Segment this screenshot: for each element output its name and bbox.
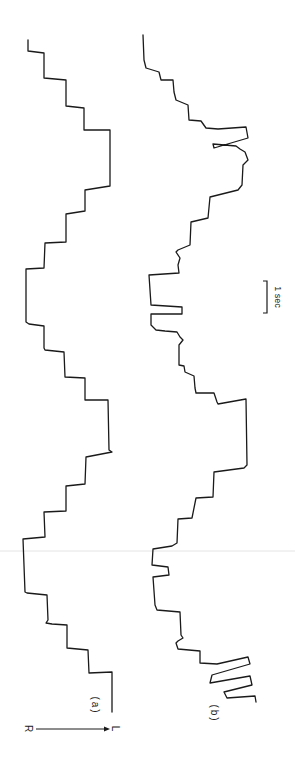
trace-a-line — [23, 40, 112, 712]
trace-b-line — [143, 35, 256, 702]
direction-start-label: R — [23, 725, 34, 732]
direction-end-label: L — [110, 726, 121, 732]
direction-arrowhead-icon — [104, 727, 110, 732]
scale-bar-label: 1 sec — [273, 286, 283, 308]
figure-canvas — [0, 0, 295, 773]
scale-bar — [263, 281, 267, 313]
trace-a-label: (a) — [90, 696, 101, 714]
trace-b-label: (b) — [209, 704, 220, 722]
